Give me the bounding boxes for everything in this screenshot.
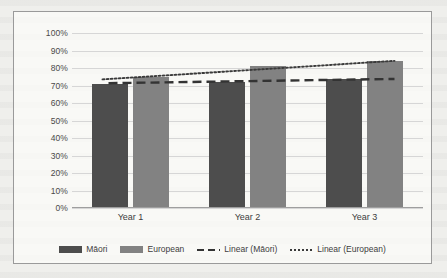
chart-legend: MāoriEuropeanLinear (Māori)Linear (Europ… — [14, 244, 431, 254]
y-axis-tick-label: 90% — [51, 46, 68, 56]
x-axis-tick-label: Year 1 — [118, 212, 144, 222]
legend-swatch-european — [120, 246, 143, 253]
legend-item-label: Linear (Māori) — [224, 244, 277, 254]
legend-item[interactable]: Linear (Māori) — [197, 244, 277, 254]
y-axis: 100%90%80%70%60%50%40%30%20%10%0% — [20, 33, 68, 208]
x-axis-baseline — [72, 207, 423, 208]
y-axis-tick-label: 60% — [51, 98, 68, 108]
y-axis-tick-label: 20% — [51, 168, 68, 178]
x-axis-tick-label: Year 3 — [352, 212, 378, 222]
y-axis-tick-label: 80% — [51, 63, 68, 73]
gridline — [72, 208, 423, 209]
trendline-maori — [109, 79, 395, 83]
y-axis-tick-label: 100% — [46, 28, 68, 38]
x-axis-tick-label: Year 2 — [235, 212, 261, 222]
legend-item-label: Linear (European) — [317, 244, 386, 254]
trendline-european — [103, 61, 395, 80]
legend-item[interactable]: European — [120, 244, 184, 254]
chart-plot-wrapper: 100%90%80%70%60%50%40%30%20%10%0% Year 1… — [14, 12, 431, 263]
trendline-layer — [72, 33, 423, 208]
legend-dashed-line-icon — [197, 246, 220, 253]
y-axis-tick-label: 30% — [51, 151, 68, 161]
y-axis-tick-label: 40% — [51, 133, 68, 143]
legend-swatch-maori — [59, 246, 82, 253]
legend-dotted-line-icon — [290, 246, 313, 253]
chart-frame: 100%90%80%70%60%50%40%30%20%10%0% Year 1… — [13, 11, 432, 264]
y-axis-tick-label: 50% — [51, 116, 68, 126]
plot-area — [72, 33, 423, 208]
y-axis-tick-label: 70% — [51, 81, 68, 91]
legend-item[interactable]: Linear (European) — [290, 244, 386, 254]
y-axis-tick-label: 0% — [56, 203, 69, 213]
y-axis-tick-label: 10% — [51, 186, 68, 196]
legend-item-label: European — [147, 244, 184, 254]
x-axis: Year 1Year 2Year 3 — [72, 212, 423, 228]
legend-item[interactable]: Māori — [59, 244, 107, 254]
legend-item-label: Māori — [86, 244, 107, 254]
